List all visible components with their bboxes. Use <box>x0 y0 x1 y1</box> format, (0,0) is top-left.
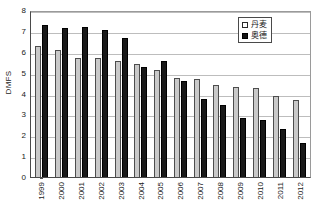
y-tick-label: 8 <box>11 7 26 15</box>
bar-series-b <box>240 118 246 177</box>
bar-series-a <box>273 96 279 177</box>
bar-series-b <box>260 120 266 177</box>
x-tick-label: 2005 <box>156 182 165 200</box>
bar-group <box>210 12 230 177</box>
x-tick-label: 2008 <box>216 182 225 200</box>
bar-series-b <box>161 61 167 177</box>
x-category: 2002 <box>91 179 111 217</box>
x-category: 2011 <box>270 179 290 217</box>
bar-group <box>269 12 289 177</box>
bar-series-a <box>115 61 121 177</box>
bar-series-b <box>82 27 88 177</box>
x-tick-label: 2001 <box>76 182 85 200</box>
x-tick-label: 2004 <box>136 182 145 200</box>
y-tick-label: 0 <box>11 174 26 182</box>
bar-series-b <box>62 28 68 177</box>
bar-series-a <box>174 78 180 177</box>
bar-chart: DMFS 876543210 1999200020012002200320042… <box>0 0 318 217</box>
bar-series-b <box>181 81 187 177</box>
x-tick-label: 2003 <box>116 182 125 200</box>
bar-group <box>72 12 92 177</box>
x-tick-label: 2000 <box>56 182 65 200</box>
x-axis-tick-labels: 1999200020012002200320042005200620072008… <box>30 179 311 217</box>
y-axis-tick-labels: 876543210 <box>11 11 26 178</box>
bar-group <box>32 12 52 177</box>
x-category: 2010 <box>250 179 270 217</box>
bar-series-b <box>141 67 147 177</box>
legend-label-series-b: 奥德 <box>251 31 267 40</box>
bar-series-b <box>300 143 306 177</box>
x-category: 2000 <box>51 179 71 217</box>
chart-legend: 丹麦 奥德 <box>238 17 272 43</box>
y-tick-label: 3 <box>11 111 26 119</box>
bar-group <box>91 12 111 177</box>
x-category: 2004 <box>131 179 151 217</box>
bar-series-b <box>42 25 48 177</box>
bar-series-a <box>35 46 41 178</box>
x-category: 2001 <box>71 179 91 217</box>
x-category: 2003 <box>111 179 131 217</box>
bar-group <box>111 12 131 177</box>
bar-series-a <box>194 79 200 177</box>
bar-series-b <box>201 99 207 177</box>
x-tick-label: 1999 <box>36 182 45 200</box>
bar-group <box>151 12 171 177</box>
legend-item-series-b: 奥德 <box>242 31 267 40</box>
x-tick-label: 2007 <box>196 182 205 200</box>
bar-series-a <box>75 58 81 177</box>
bar-series-a <box>293 100 299 177</box>
y-tick-label: 6 <box>11 49 26 57</box>
bar-series-b <box>280 129 286 177</box>
bar-series-a <box>134 64 140 177</box>
x-category: 2012 <box>290 179 310 217</box>
bar-group <box>52 12 72 177</box>
legend-swatch-icon-series-b <box>242 33 248 39</box>
legend-label-series-a: 丹麦 <box>251 20 267 29</box>
x-tick-label: 2009 <box>236 182 245 200</box>
bar-group <box>289 12 309 177</box>
bar-series-a <box>95 58 101 177</box>
bar-series-b <box>220 105 226 177</box>
bar-series-a <box>253 88 259 177</box>
x-category: 2008 <box>210 179 230 217</box>
y-tick-label: 5 <box>11 70 26 78</box>
bar-group <box>170 12 190 177</box>
bar-series-a <box>233 87 239 177</box>
x-tick-label: 2006 <box>176 182 185 200</box>
y-tick-label: 7 <box>11 28 26 36</box>
x-category: 2009 <box>230 179 250 217</box>
bar-series-a <box>55 50 61 177</box>
legend-swatch-icon-series-a <box>242 22 248 28</box>
x-category: 2007 <box>190 179 210 217</box>
bar-series-a <box>154 70 160 178</box>
x-tick-label: 2002 <box>96 182 105 200</box>
x-category: 1999 <box>31 179 51 217</box>
x-tick-label: 2010 <box>256 182 265 200</box>
bar-series-b <box>102 30 108 177</box>
x-category: 2005 <box>151 179 171 217</box>
bar-series-a <box>213 85 219 177</box>
bar-group <box>131 12 151 177</box>
legend-item-series-a: 丹麦 <box>242 20 267 29</box>
x-tick-label: 2011 <box>276 182 285 199</box>
bar-group <box>190 12 210 177</box>
y-tick-label: 2 <box>11 132 26 140</box>
x-tick-label: 2012 <box>295 182 304 200</box>
y-tick-label: 1 <box>11 153 26 161</box>
x-category: 2006 <box>170 179 190 217</box>
bar-series-b <box>122 38 128 177</box>
y-tick-label: 4 <box>11 91 26 99</box>
